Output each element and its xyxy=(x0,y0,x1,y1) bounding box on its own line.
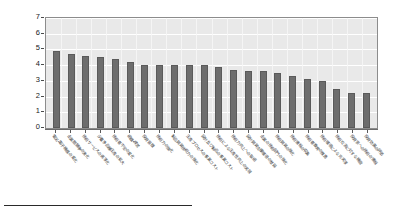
bar xyxy=(304,79,311,128)
y-tick-label: 0 xyxy=(36,123,40,131)
bar xyxy=(289,76,296,128)
bar xyxy=(156,65,163,128)
bar xyxy=(348,93,355,128)
y-tick-mark xyxy=(41,48,44,49)
y-tick-mark xyxy=(41,80,44,81)
bar-chart: 76543210 電気・電子機器の変化企業間競争の激化技術サービスの高度化少量多… xyxy=(0,0,396,214)
bar xyxy=(363,93,370,128)
bar-slot xyxy=(256,18,271,128)
bar xyxy=(127,62,134,128)
y-tick-mark xyxy=(41,17,44,18)
bar-slot xyxy=(300,18,315,128)
x-tick-mark xyxy=(367,130,368,133)
x-axis-labels: 電気・電子機器の変化企業間競争の激化技術サービスの高度化少量多品種生産の拡大技術… xyxy=(45,134,378,194)
x-label-slot: 企業間競争の激化 xyxy=(63,134,78,194)
x-label-slot: 技術による生産性向上の実現 xyxy=(211,134,226,194)
y-tick-label: 2 xyxy=(36,92,40,100)
bar-slot xyxy=(241,18,256,128)
bar-slot xyxy=(285,18,300,128)
x-label-slot: 技術力の強化 xyxy=(152,134,167,194)
bar xyxy=(260,71,267,128)
x-tick-mark xyxy=(55,130,56,133)
x-label-slot: 企業の技術部門の強化 xyxy=(256,134,271,194)
bar xyxy=(186,65,193,128)
bar-slot xyxy=(211,18,226,128)
x-label-slot: 技術情報の収集 xyxy=(286,134,301,194)
bar-slot xyxy=(138,18,153,128)
x-tick-mark xyxy=(263,130,264,133)
bar xyxy=(215,67,222,128)
bar-slot xyxy=(167,18,182,128)
bar-slot xyxy=(49,18,64,128)
bar-slot xyxy=(123,18,138,128)
bar xyxy=(141,65,148,128)
bar-slot xyxy=(64,18,79,128)
bar xyxy=(82,56,89,128)
y-axis: 76543210 xyxy=(28,17,44,129)
y-tick-mark xyxy=(41,127,44,128)
x-tick-mark xyxy=(159,130,160,133)
x-label-slot: 電気・電子機器の変化 xyxy=(48,134,63,194)
bar xyxy=(97,57,104,128)
y-tick-mark xyxy=(41,96,44,97)
bar-slot xyxy=(93,18,108,128)
x-tick-mark xyxy=(278,130,279,133)
bar-slot xyxy=(270,18,285,128)
bar-slot xyxy=(226,18,241,128)
bar-slot xyxy=(359,18,374,128)
bar-slot xyxy=(197,18,212,128)
x-label-slot: 少量多品種生産の拡大 xyxy=(93,134,108,194)
bar xyxy=(112,59,119,128)
bar-slot xyxy=(330,18,345,128)
x-label-slot: 技術交流に対する機能 xyxy=(330,134,345,194)
y-tick-label: 5 xyxy=(36,45,40,53)
bar-slot xyxy=(182,18,197,128)
bar xyxy=(53,51,60,128)
x-axis-tick-label: 投資効果の評価 xyxy=(363,134,384,157)
x-label-slot: 投資家への技術の情報 xyxy=(345,134,360,194)
x-label-slot: 設計開発支援環境の整備 xyxy=(241,134,256,194)
y-tick-label: 4 xyxy=(36,60,40,68)
bar xyxy=(245,71,252,128)
bar-slot xyxy=(344,18,359,128)
x-label-slot: 生産プロセスの事業コスト xyxy=(182,134,197,194)
x-label-slot: 投資効果の評価 xyxy=(360,134,375,194)
bar xyxy=(333,89,340,128)
bar xyxy=(201,65,208,128)
bar-slot xyxy=(108,18,123,128)
y-tick-mark xyxy=(41,64,44,65)
x-label-slot: 技術サービスの高度化 xyxy=(78,134,93,194)
x-label-slot: 組織・経営 xyxy=(122,134,137,194)
y-tick-mark xyxy=(41,111,44,112)
y-tick-label: 1 xyxy=(36,108,40,116)
x-label-slot: 技術開発の強化 xyxy=(271,134,286,194)
x-label-slot: 技術者不足の変化 xyxy=(107,134,122,194)
y-tick-mark xyxy=(41,33,44,34)
y-tick-label: 6 xyxy=(36,29,40,37)
x-label-slot: 技術者教育の推進 xyxy=(301,134,316,194)
x-label-slot: 技術環境による充実度 xyxy=(315,134,330,194)
x-label-slot: 投資意識 xyxy=(137,134,152,194)
bar-slot xyxy=(79,18,94,128)
y-tick-label: 7 xyxy=(36,13,40,21)
bar-slot xyxy=(315,18,330,128)
x-label-slot: 製品開発技術力の強化 xyxy=(167,134,182,194)
bar xyxy=(274,73,281,128)
bar-slot xyxy=(152,18,167,128)
x-label-slot: 技術力向上への取組 xyxy=(226,134,241,194)
bar xyxy=(171,65,178,128)
y-tick-label: 3 xyxy=(36,76,40,84)
footnote-rule xyxy=(4,205,192,206)
bar xyxy=(68,54,75,128)
bar xyxy=(230,70,237,128)
plot-area xyxy=(45,17,378,129)
x-label-slot: 設計及び製品の事業コスト xyxy=(197,134,212,194)
bar-series xyxy=(46,18,377,128)
bar xyxy=(319,81,326,128)
